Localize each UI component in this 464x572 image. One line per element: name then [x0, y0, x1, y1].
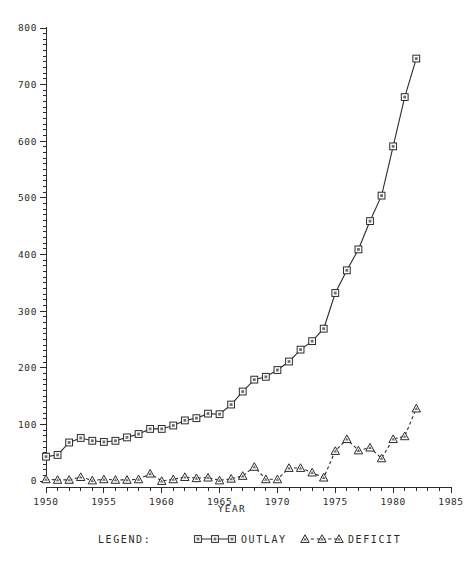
data-point	[390, 143, 397, 150]
square-marker-core	[380, 194, 383, 197]
square-marker-core	[288, 360, 291, 363]
x-axis-tick-label: 1970	[265, 496, 290, 507]
data-point	[181, 417, 188, 424]
square-marker-core	[197, 538, 200, 541]
data-point	[228, 401, 235, 408]
data-point	[158, 426, 165, 433]
square-marker-core	[207, 412, 210, 415]
data-point	[89, 437, 96, 444]
x-axis-tick-label: 1950	[33, 496, 58, 507]
y-axis-tick-label: 300	[18, 306, 37, 317]
square-marker-core	[322, 327, 325, 330]
square-marker-core	[137, 433, 140, 436]
data-point	[343, 267, 350, 274]
data-point	[193, 415, 200, 422]
legend-square-marker-icon	[229, 536, 236, 543]
y-axis-tick-label: 500	[18, 192, 37, 203]
data-point	[66, 439, 73, 446]
square-marker-core	[253, 378, 256, 381]
square-marker-core	[91, 439, 94, 442]
square-marker-core	[149, 428, 152, 431]
square-marker-core	[45, 455, 48, 458]
y-axis-tick-label: 0	[31, 475, 37, 486]
data-point	[251, 376, 258, 383]
legend-entry-label: DEFICIT	[348, 534, 401, 545]
data-point	[413, 55, 420, 62]
data-point	[100, 439, 107, 446]
data-point	[205, 410, 212, 417]
legend-square-marker-icon	[212, 536, 219, 543]
x-axis-tick-label: 1975	[323, 496, 348, 507]
legend-entry-label: OUTLAY	[241, 534, 287, 545]
square-marker-core	[345, 269, 348, 272]
data-point	[367, 218, 374, 225]
data-point	[320, 325, 327, 332]
square-marker-core	[160, 428, 163, 431]
data-point	[401, 94, 408, 101]
x-axis-tick-label: 1985	[438, 496, 463, 507]
data-point	[286, 358, 293, 365]
data-point	[262, 373, 269, 380]
x-axis-tick-label: 1980	[381, 496, 406, 507]
square-marker-core	[264, 375, 267, 378]
square-marker-core	[79, 437, 82, 440]
square-marker-core	[68, 441, 71, 444]
data-point	[355, 246, 362, 253]
square-marker-core	[334, 292, 337, 295]
chart-container: 0100200300400500600700800 19501955196019…	[0, 0, 464, 572]
data-point	[274, 367, 281, 374]
y-axis-tick-label: 800	[18, 22, 37, 33]
data-point	[309, 338, 316, 345]
chart-legend: LEGEND:OUTLAYDEFICIT	[98, 534, 401, 545]
x-axis-tick-label: 1955	[91, 496, 116, 507]
data-point	[147, 426, 154, 433]
square-marker-core	[299, 348, 302, 351]
y-axis-tick-label: 400	[18, 249, 37, 260]
data-point	[124, 434, 131, 441]
square-marker-core	[214, 538, 217, 541]
data-point	[77, 435, 84, 442]
square-marker-core	[230, 403, 233, 406]
square-marker-core	[231, 538, 234, 541]
square-marker-core	[403, 96, 406, 99]
data-point	[43, 453, 50, 460]
data-point	[216, 411, 223, 418]
x-axis-title: YEAR	[218, 503, 246, 514]
chart-background	[0, 0, 464, 572]
square-marker-core	[56, 454, 59, 457]
square-marker-core	[183, 419, 186, 422]
square-marker-core	[218, 413, 221, 416]
data-point	[239, 388, 246, 395]
y-axis-tick-label: 600	[18, 136, 37, 147]
square-marker-core	[172, 424, 175, 427]
square-marker-core	[357, 248, 360, 251]
federal-outlay-deficit-line-chart: 0100200300400500600700800 19501955196019…	[0, 0, 464, 572]
square-marker-core	[276, 369, 279, 372]
square-marker-core	[369, 220, 372, 223]
square-marker-core	[415, 57, 418, 60]
data-point	[170, 422, 177, 429]
square-marker-core	[114, 439, 117, 442]
y-axis-tick-label: 100	[18, 419, 37, 430]
data-point	[378, 192, 385, 199]
square-marker-core	[241, 390, 244, 393]
square-marker-core	[311, 340, 314, 343]
square-marker-core	[392, 145, 395, 148]
y-axis-tick-label: 700	[18, 79, 37, 90]
data-point	[135, 431, 142, 438]
data-point	[54, 452, 61, 459]
data-point	[332, 290, 339, 297]
legend-square-marker-icon	[195, 536, 202, 543]
legend-title: LEGEND:	[98, 534, 151, 545]
x-axis-tick-label: 1960	[149, 496, 174, 507]
square-marker-core	[195, 417, 198, 420]
square-marker-core	[126, 436, 129, 439]
square-marker-core	[102, 441, 105, 444]
data-point	[297, 346, 304, 353]
data-point	[112, 437, 119, 444]
y-axis-tick-label: 200	[18, 362, 37, 373]
